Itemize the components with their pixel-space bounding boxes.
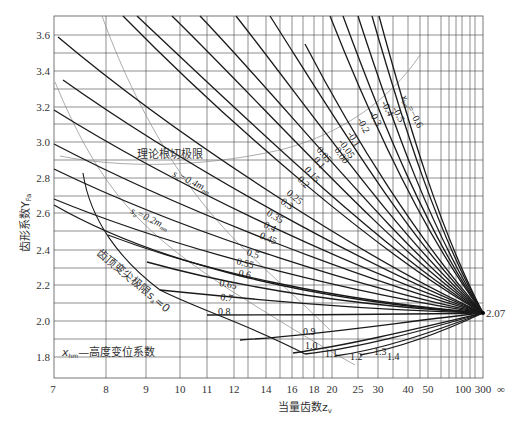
tooth-form-factor-chart: 3.6 3.4 3.2 3.0 2.8 2.6 2.4 2.2 2.0 1.8 …: [0, 0, 520, 422]
svg-text:2.4: 2.4: [36, 244, 50, 256]
svg-text:50: 50: [423, 383, 435, 395]
svg-text:3.2: 3.2: [36, 101, 50, 113]
svg-text:1.1: 1.1: [325, 348, 338, 359]
svg-text:3.6: 3.6: [36, 29, 50, 41]
svg-text:18: 18: [309, 383, 321, 395]
svg-text:0.8: 0.8: [218, 306, 231, 317]
svg-text:1.3: 1.3: [374, 346, 387, 357]
svg-text:∞: ∞: [497, 383, 505, 395]
svg-text:2.2: 2.2: [36, 279, 50, 291]
svg-text:7: 7: [50, 383, 56, 395]
svg-text:2.0: 2.0: [36, 315, 50, 327]
svg-text:14: 14: [261, 383, 273, 395]
convergence-label: 2.07: [486, 307, 506, 319]
svg-text:30: 30: [373, 383, 385, 395]
svg-text:300: 300: [475, 383, 492, 395]
undercut-limit-label: 理论根切极限: [137, 147, 203, 161]
svg-text:16: 16: [287, 383, 299, 395]
svg-text:10: 10: [175, 383, 187, 395]
svg-text:3.0: 3.0: [36, 136, 50, 148]
y-tick-labels: 3.6 3.4 3.2 3.0 2.8 2.6 2.4 2.2 2.0 1.8: [36, 29, 50, 363]
y-axis-title: 齿形系数YFa: [19, 194, 33, 252]
svg-text:1.8: 1.8: [36, 351, 50, 363]
svg-text:1.2: 1.2: [350, 351, 363, 362]
convergence-point: [481, 311, 485, 315]
svg-text:8: 8: [103, 383, 109, 395]
svg-text:20: 20: [327, 383, 339, 395]
svg-text:12: 12: [229, 383, 240, 395]
svg-text:25: 25: [353, 383, 365, 395]
svg-text:40: 40: [403, 383, 415, 395]
x-axis-title: 当量齿数zv: [278, 400, 332, 415]
x-tick-labels: 7 8 9 10 11 12 14 16 18 20 25 30 40 50 1…: [50, 383, 505, 395]
svg-text:0.7: 0.7: [220, 291, 234, 304]
svg-text:2.6: 2.6: [36, 207, 50, 219]
svg-text:9: 9: [143, 383, 149, 395]
svg-text:100: 100: [455, 383, 472, 395]
svg-text:0.9: 0.9: [303, 326, 316, 337]
svg-text:11: 11: [202, 383, 213, 395]
plot-frame: [54, 16, 483, 378]
svg-text:2.8: 2.8: [36, 172, 50, 184]
svg-text:3.4: 3.4: [36, 65, 50, 77]
svg-text:1.4: 1.4: [387, 351, 400, 362]
svg-text:1.0: 1.0: [305, 340, 318, 351]
